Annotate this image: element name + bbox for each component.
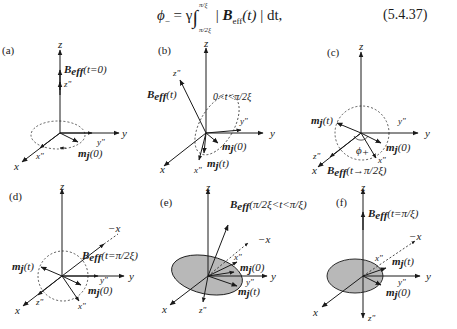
z2-axis-label: z" (198, 305, 207, 315)
b-eff-label: Beff(t=0) (63, 63, 107, 77)
y-axis-label: y (424, 127, 430, 139)
m0-label: mj(0) (88, 284, 113, 298)
panel-a: (a) z Beff(t=0) z" y y" x x" mj(0) (2, 38, 127, 172)
x2-arrow (40, 133, 60, 148)
z2-axis-label: z" (172, 68, 181, 78)
m0-label: mj(0) (386, 286, 411, 300)
z2-axis-label: z" (35, 297, 44, 307)
m0-label: mj(0) (222, 140, 247, 154)
y2-axis-label: y" (96, 137, 105, 147)
x-axis-label: x (13, 160, 19, 172)
mt-label: mj(t) (311, 114, 333, 128)
mt-vector (337, 123, 361, 133)
x2-axis-label: x" (77, 301, 86, 311)
panel-d: (d) z y y" x z" −x Beff(t=π/2ξ) x" mj(t)… (9, 180, 138, 316)
z2-axis-label: z" (367, 313, 376, 323)
mt-label: mj(t) (238, 285, 260, 299)
y-axis-label: y (425, 270, 431, 282)
time-range-label: 0<t<π/2ξ (213, 91, 252, 103)
z2-arrow (38, 276, 62, 295)
b-eff-label: Beff(t→π/2ξ) (326, 164, 387, 178)
m0-vector (206, 133, 218, 143)
z-axis-label: z (358, 40, 364, 52)
m0-label: mj(0) (386, 141, 411, 155)
panel-a-label: (a) (2, 44, 15, 57)
m0-label: mj(0) (78, 147, 103, 161)
x-axis (164, 133, 206, 166)
mt-label: mj(t) (392, 255, 414, 269)
x-axis-label: x (14, 304, 20, 316)
x2-axis-label: x" (374, 253, 383, 263)
mt-vector (41, 267, 62, 276)
z-axis-label: z (59, 180, 65, 192)
panel-e-label: (e) (160, 196, 173, 209)
m0-label: mj(0) (240, 261, 265, 275)
b-eff-vector (180, 80, 206, 133)
negx-label: −x (258, 233, 270, 245)
angle-label: ϕ+ (356, 144, 369, 158)
panel-c: (c) z y y" x z" Beff(t→π/2ξ) x" ϕ+ mj(t)… (311, 40, 430, 178)
negx-label: −x (108, 222, 120, 234)
x2-axis-label: x" (35, 151, 44, 161)
y-axis-label: y (270, 270, 276, 282)
b-eff-label: Beff(t=π/2ξ) (81, 249, 138, 263)
b-eff-label: Beff(t) (146, 88, 177, 102)
x-axis-label: x (312, 306, 318, 318)
z2-axis-label: z" (312, 151, 321, 161)
z-axis-label: z (360, 181, 366, 193)
y-axis-label: y (121, 127, 127, 139)
negative-x-axis (104, 234, 118, 244)
x2-axis-label: x" (193, 165, 202, 175)
panel-d-label: (d) (9, 190, 22, 203)
panel-f-label: (f) (336, 196, 347, 209)
panel-f: (f) z Beff(t=π/ξ) z" y y" x −x x" mj(t) … (312, 181, 431, 323)
b-eff-label: Beff(π/2ξ<t<π/ξ) (229, 198, 307, 212)
y-axis-label: y (269, 127, 275, 139)
z2-axis-label: z" (63, 79, 72, 89)
x-axis-label: x (161, 303, 167, 315)
b-eff-label: Beff(t=π/ξ) (367, 207, 419, 221)
x-axis-label: x (159, 163, 165, 175)
y-axis-label: y (128, 270, 134, 282)
x2-axis-label: x" (377, 155, 386, 165)
panel-e: (e) z Beff(π/2ξ<t<π/ξ) y y" x z" −x x" m… (160, 181, 307, 315)
panel-b: (b) z z" Beff(t) 0<t<π/2ξ y y" x x" mj(0… (146, 37, 275, 175)
m0-vector (60, 133, 78, 142)
y2-axis-label: y" (239, 116, 248, 126)
x-axis-label: x (311, 164, 317, 176)
mt-label: mj(t) (12, 260, 34, 274)
panel-b-label: (b) (158, 44, 171, 57)
z-axis-label: z (57, 38, 63, 50)
panel-c-label: (c) (327, 46, 340, 59)
z-axis-label: z (203, 37, 209, 49)
mt-label: mj(t) (207, 157, 229, 171)
y2-axis-label: y" (397, 116, 406, 126)
z-axis-label: z (205, 181, 211, 193)
precession-diagrams: (a) z Beff(t=0) z" y y" x x" mj(0) (b) z… (0, 0, 457, 329)
negx-label: −x (409, 230, 421, 242)
